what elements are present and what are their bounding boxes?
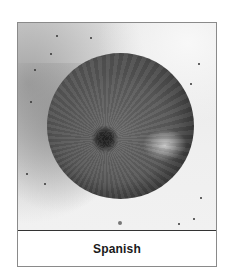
onion-texture <box>47 53 194 199</box>
speck <box>118 221 122 225</box>
speck <box>178 223 180 225</box>
speck <box>193 218 195 220</box>
speck <box>190 83 192 85</box>
speck <box>30 101 32 103</box>
speck <box>198 63 200 65</box>
speck <box>56 35 58 37</box>
speck <box>50 53 52 55</box>
onion-bulb <box>47 53 194 199</box>
speck <box>90 37 92 39</box>
figure-caption: Spanish <box>18 231 216 266</box>
speck <box>44 183 46 185</box>
speck <box>34 69 36 71</box>
figure-card: Spanish <box>17 22 217 267</box>
speck <box>26 173 28 175</box>
onion-photo <box>18 23 216 230</box>
speck <box>200 197 202 199</box>
